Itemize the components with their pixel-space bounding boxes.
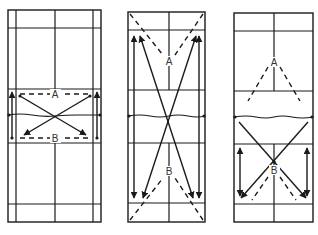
court-1: A B xyxy=(7,10,101,222)
court-3-diagonal-1 xyxy=(239,122,306,198)
court-3-b-dashed-right xyxy=(280,177,296,200)
court-3-label-b: B xyxy=(271,165,278,176)
court-3-b-dashed-left xyxy=(252,177,268,200)
court-3-net xyxy=(234,116,313,118)
court-3: A B xyxy=(233,13,313,222)
badminton-diagram: A B A B xyxy=(0,0,318,235)
court-2-label-a: A xyxy=(166,56,173,67)
court-3-a-dashed-right xyxy=(280,67,300,101)
diagram-stage: A B A B xyxy=(0,0,318,235)
court-2-b-dashed-left xyxy=(130,178,163,220)
court-2-a-dashed-left xyxy=(130,14,163,55)
court-2: A B xyxy=(127,12,205,222)
court-3-a-dashed-left xyxy=(248,67,268,101)
court-3-label-a: A xyxy=(271,57,278,68)
court-1-net-post-right xyxy=(98,113,101,116)
court-1-label-b: B xyxy=(52,133,59,144)
court-2-label-b: B xyxy=(166,166,173,177)
court-1-label-a: A xyxy=(52,89,59,100)
court-1-net-post-left xyxy=(7,113,10,116)
